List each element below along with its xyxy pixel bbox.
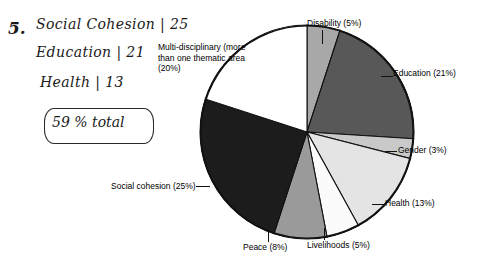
slice-label-disability: Disability (5%) xyxy=(307,18,361,29)
leader-livelihoods xyxy=(324,228,325,240)
slice-label-peace: Peace (8%) xyxy=(243,242,287,253)
screenshot-root: 5. Social Cohesion | 25 Education | 21 H… xyxy=(0,0,477,265)
slice-label-gender: Gender (3%) xyxy=(398,145,447,156)
slice-label-health: Health (13%) xyxy=(385,198,435,209)
handwritten-line-3: Health | 13 xyxy=(40,74,124,90)
slice-label-education: Education (21%) xyxy=(393,68,456,79)
handwritten-item-number: 5. xyxy=(8,18,26,38)
handwritten-line-2: Education | 21 xyxy=(36,44,145,60)
slice-label-multi-disciplinary: Multi-disciplinary (more than one themat… xyxy=(158,42,250,74)
leader-health xyxy=(372,204,384,205)
leader-gender xyxy=(385,151,397,152)
leader-social-cohesion xyxy=(196,186,210,187)
handwritten-total-text: 59 % total xyxy=(52,114,125,130)
leader-disability xyxy=(322,30,323,44)
leader-education xyxy=(381,76,393,77)
leader-peace xyxy=(268,232,269,242)
slice-label-social-cohesion: Social cohesion (25%) xyxy=(111,181,196,192)
handwritten-line-1: Social Cohesion | 25 xyxy=(36,16,189,32)
slice-label-livelihoods: Livelihoods (5%) xyxy=(307,240,370,251)
